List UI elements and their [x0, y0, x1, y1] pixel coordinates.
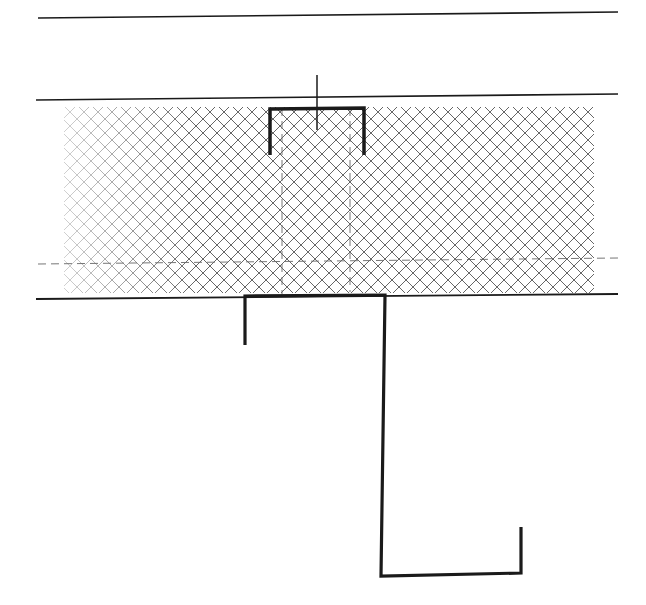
- top-boundary-line: [38, 12, 618, 18]
- hatch-fade: [64, 107, 594, 293]
- panel-top-line: [36, 94, 618, 100]
- cross-section-drawing: [0, 0, 646, 605]
- bottom-z-profile: [245, 295, 521, 576]
